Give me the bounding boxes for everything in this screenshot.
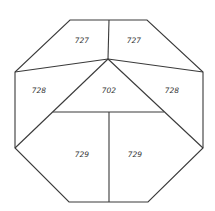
region-label-top-left: 727 xyxy=(75,36,90,45)
region-label-bottom-right: 729 xyxy=(128,150,143,159)
left-diagonal xyxy=(15,59,108,148)
region-label-bottom-left: 729 xyxy=(75,150,90,159)
region-label-top-right: 727 xyxy=(127,36,142,45)
region-label-mid-left: 728 xyxy=(32,86,47,95)
octagon-diagram: 727 727 728 702 728 729 729 xyxy=(0,0,215,211)
top-divider xyxy=(108,20,109,59)
region-label-mid-right: 728 xyxy=(165,86,180,95)
region-label-center: 702 xyxy=(102,86,117,95)
upper-right-divider xyxy=(108,59,203,72)
upper-left-divider xyxy=(15,59,108,72)
right-diagonal xyxy=(108,59,203,148)
